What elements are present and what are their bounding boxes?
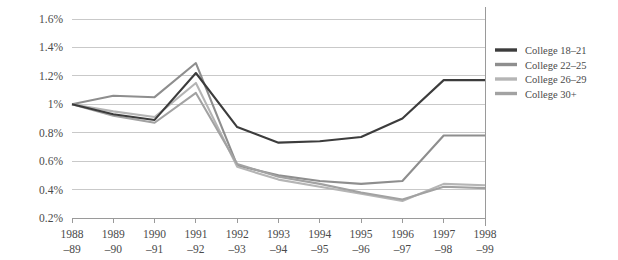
series-line	[72, 93, 485, 200]
x-axis-tick-label: 1994	[308, 228, 331, 240]
x-axis-tick-label: 1991	[184, 228, 207, 240]
y-axis-tick-label: 0.2%	[39, 212, 63, 224]
x-axis-tick-label: 1995	[350, 228, 373, 240]
chart-canvas: 0.2%0.4%0.6%0.8%1%1.2%1.4%1.6% 1988–8919…	[0, 0, 618, 260]
x-axis-tick-label: 1993	[267, 228, 290, 240]
x-axis-tick-label-second-line: –99	[475, 243, 494, 255]
legend-label: College 30+	[525, 89, 577, 100]
chart-legend: College 18–21College 22–25College 26–29C…	[495, 45, 587, 100]
x-axis-tick-label: 1989	[102, 228, 125, 240]
data-series	[72, 63, 485, 201]
y-axis-tick-labels: 0.2%0.4%0.6%0.8%1%1.2%1.4%1.6%	[39, 13, 63, 224]
x-axis-tick-label-second-line: –97	[393, 243, 412, 255]
x-axis-tick-label-second-line: –91	[145, 243, 164, 255]
series-line	[72, 63, 485, 184]
y-axis-tick-label: 0.8%	[39, 127, 63, 139]
x-axis-tick-label-second-line: –96	[351, 243, 370, 255]
x-axis-tick-label: 1988	[61, 228, 84, 240]
y-axis-tick-label: 1%	[48, 98, 64, 110]
x-axis-tick-label-second-line: –89	[62, 243, 81, 255]
y-axis-tick-label: 0.6%	[39, 155, 63, 167]
x-axis-tick-label-second-line: –92	[186, 243, 205, 255]
line-chart: 0.2%0.4%0.6%0.8%1%1.2%1.4%1.6% 1988–8919…	[0, 0, 618, 260]
legend-label: College 22–25	[525, 60, 587, 71]
x-axis-tick-label: 1990	[143, 228, 166, 240]
x-axis-tick-label-second-line: –93	[228, 243, 247, 255]
x-axis-tick-label-second-line: –90	[104, 243, 123, 255]
x-axis-tickmarks	[72, 218, 485, 223]
y-axis-tick-label: 1.4%	[39, 41, 63, 53]
x-axis-tick-label-second-line: –98	[434, 243, 453, 255]
y-axis-tick-label: 0.4%	[39, 184, 63, 196]
y-axis-tick-label: 1.2%	[39, 70, 63, 82]
legend-label: College 26–29	[525, 74, 587, 85]
x-axis-tick-label: 1997	[432, 228, 455, 240]
x-axis-tick-label: 1992	[226, 228, 249, 240]
x-axis-tick-label-second-line: –94	[269, 243, 288, 255]
legend-label: College 18–21	[525, 45, 587, 56]
x-axis-tick-labels: 1988–891989–901990–911991–921992–931993–…	[61, 228, 497, 255]
series-line	[72, 73, 485, 143]
x-axis-tick-label: 1996	[391, 228, 414, 240]
x-axis-tick-label-second-line: –95	[310, 243, 329, 255]
y-axis-tick-label: 1.6%	[39, 13, 63, 25]
x-axis-tick-label: 1998	[474, 228, 497, 240]
